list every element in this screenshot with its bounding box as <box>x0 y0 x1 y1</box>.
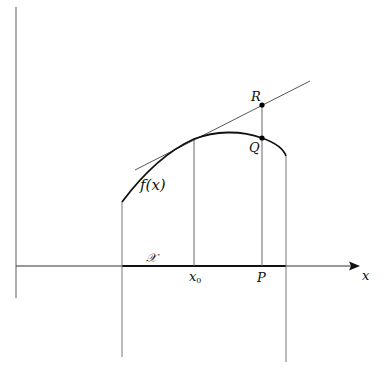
x-axis-label: x <box>362 268 370 283</box>
point-q-label: Q <box>249 140 260 155</box>
tangent-line <box>135 81 310 170</box>
point-r-label: R <box>250 89 261 104</box>
tangent-line-diagram: f(x) R Q P x0 x 𝒳 <box>0 0 384 373</box>
x0-label-subscript: 0 <box>196 276 201 285</box>
function-label: f(x) <box>139 176 166 194</box>
point-q-marker <box>259 135 264 140</box>
x0-label: x0 <box>189 269 201 285</box>
domain-label: 𝒳 <box>146 251 160 265</box>
point-p-label: P <box>256 270 266 285</box>
